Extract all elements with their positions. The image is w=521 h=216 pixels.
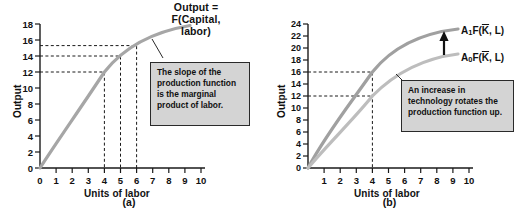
- panel-b-y-ticks: [303, 24, 308, 168]
- panel-b: 0 2 4 6 8 10 12 14 16 18 20 22 24: [258, 0, 521, 216]
- panel-b-x-ticklabels: 1 2 3 4 5 6 7 8 9 10: [321, 175, 474, 186]
- panel-b-y-axis-title: Output: [276, 85, 287, 118]
- svg-text:18: 18: [291, 55, 301, 65]
- svg-text:4: 4: [28, 131, 34, 142]
- svg-text:8: 8: [166, 175, 171, 186]
- panel-a-curve-label: Output = F(Capital, labor): [140, 2, 252, 37]
- curve-label-line-3: labor): [140, 26, 252, 38]
- panel-b-x-ticks: [324, 168, 469, 173]
- series-label-a1: A1F(K, L): [461, 25, 504, 37]
- panel-a-x-ticklabels: 0 1 2 3 4 5 6 7 8 9 10: [37, 175, 206, 186]
- svg-text:7: 7: [418, 175, 423, 186]
- svg-text:7: 7: [150, 175, 155, 186]
- svg-text:9: 9: [182, 175, 187, 186]
- svg-text:24: 24: [291, 19, 301, 29]
- svg-text:14: 14: [22, 51, 33, 62]
- series-label-a0-rest: F(K, L): [472, 52, 504, 63]
- svg-text:8: 8: [28, 99, 33, 110]
- svg-text:2: 2: [70, 175, 75, 186]
- svg-text:16: 16: [291, 67, 301, 77]
- svg-text:9: 9: [450, 175, 455, 186]
- svg-text:0: 0: [37, 175, 42, 186]
- svg-text:2: 2: [28, 147, 33, 158]
- panel-a-callout: The slope of the production function is …: [150, 62, 250, 126]
- up-arrow-icon: [439, 31, 448, 55]
- svg-text:10: 10: [196, 175, 207, 186]
- series-label-a1-rest: F(K, L): [472, 25, 504, 36]
- svg-text:2: 2: [296, 151, 301, 161]
- svg-text:22: 22: [291, 31, 301, 41]
- svg-text:18: 18: [22, 19, 33, 30]
- svg-text:10: 10: [22, 83, 33, 94]
- svg-text:8: 8: [296, 115, 301, 125]
- svg-text:1: 1: [53, 175, 59, 186]
- svg-text:5: 5: [118, 175, 124, 186]
- svg-text:16: 16: [22, 35, 33, 46]
- svg-text:5: 5: [386, 175, 392, 186]
- svg-text:20: 20: [291, 43, 301, 53]
- svg-text:3: 3: [86, 175, 91, 186]
- svg-text:12: 12: [22, 67, 33, 78]
- svg-text:10: 10: [291, 103, 301, 113]
- svg-text:3: 3: [354, 175, 359, 186]
- curve-label-line-1: Output =: [140, 2, 252, 14]
- svg-text:8: 8: [434, 175, 439, 186]
- panel-a-tag: (a): [0, 196, 258, 208]
- svg-text:6: 6: [134, 175, 139, 186]
- svg-text:4: 4: [296, 139, 301, 149]
- curve-label-line-2: F(Capital,: [140, 14, 252, 26]
- svg-text:14: 14: [291, 79, 301, 89]
- svg-text:1: 1: [321, 175, 327, 186]
- svg-text:2: 2: [338, 175, 343, 186]
- panel-a-x-ticks: [56, 168, 201, 173]
- panel-b-callout: An increase in technology rotates the pr…: [401, 80, 514, 132]
- svg-text:0: 0: [296, 163, 301, 173]
- series-label-a0: A0F(K, L): [461, 52, 504, 64]
- panel-a-guides: [40, 46, 137, 168]
- svg-text:0: 0: [28, 163, 33, 174]
- panel-a-y-ticks: [35, 24, 40, 168]
- svg-text:6: 6: [28, 115, 33, 126]
- panel-a-y-axis-title: Output: [12, 85, 23, 118]
- svg-text:6: 6: [296, 127, 301, 137]
- callout-leader-line: [152, 39, 163, 58]
- svg-text:4: 4: [102, 175, 108, 186]
- panel-a-y-ticklabels: 0 2 4 6 8 10 12 14 16 18: [22, 19, 33, 174]
- panel-a: 0 2 4 6 8 10 12 14 16 18 0 1 2: [0, 0, 258, 216]
- svg-text:12: 12: [291, 91, 301, 101]
- svg-text:10: 10: [464, 175, 475, 186]
- svg-text:4: 4: [370, 175, 376, 186]
- panel-b-tag: (b): [258, 196, 521, 208]
- svg-text:6: 6: [402, 175, 407, 186]
- panel-b-y-ticklabels: 0 2 4 6 8 10 12 14 16 18 20 22 24: [291, 19, 301, 173]
